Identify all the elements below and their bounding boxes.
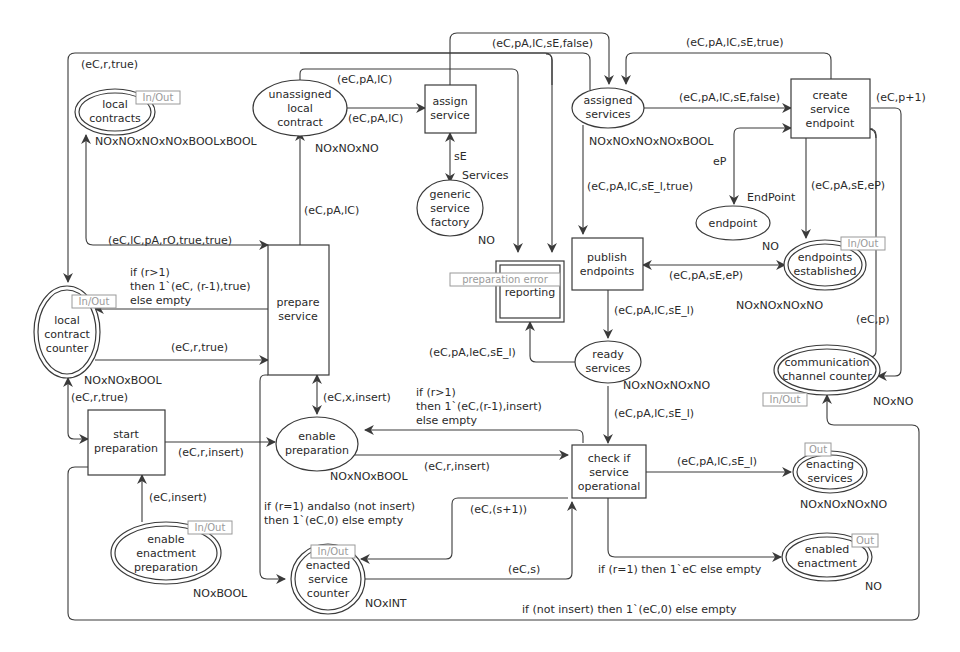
inscription: then 1`(eC,0) else empty [264, 514, 404, 527]
inscription: (eC,r,true) [171, 341, 228, 354]
place-enable-enactment-preparation[interactable]: enable enactment preparation In/Out NOxB… [111, 521, 248, 600]
svg-text:assigned: assigned [584, 94, 633, 107]
place-endpoints-established[interactable]: endpoints established In/Out NOxNOxNOxNO [736, 237, 885, 312]
arc-local-contracts-prepare [86, 135, 268, 245]
inscription: (eC,p+1) [876, 91, 926, 104]
transition-start-preparation[interactable]: start preparation [88, 410, 165, 475]
place-generic-service-factory[interactable]: generic service factory NO Services [417, 169, 509, 247]
svg-text:NO: NO [478, 234, 495, 247]
svg-text:service: service [430, 202, 470, 215]
place-ready-services[interactable]: ready services NOxNOxNOxNO [575, 341, 710, 392]
transition-create-service-endpoint[interactable]: create service endpoint [791, 79, 870, 138]
transition-publish-endpoints[interactable]: publish endpoints [572, 238, 643, 290]
svg-text:enacting: enacting [806, 458, 854, 471]
transition-reporting-subpage[interactable]: reporting preparation error [450, 261, 564, 322]
svg-text:Services: Services [462, 169, 509, 182]
svg-text:generic: generic [429, 188, 470, 201]
svg-text:counter: counter [307, 587, 350, 600]
svg-text:endpoint: endpoint [709, 217, 758, 230]
svg-text:enacted: enacted [306, 559, 351, 572]
transition-assign-service[interactable]: assign service [425, 85, 476, 133]
svg-text:Out: Out [856, 535, 874, 546]
inscription: (eC,r,insert) [424, 460, 490, 473]
svg-text:NOxNOxNOxNO: NOxNOxNOxNO [736, 299, 823, 312]
svg-text:In/Out: In/Out [848, 238, 879, 249]
svg-text:enable: enable [298, 430, 336, 443]
place-enacting-services[interactable]: enacting services Out NOxNOxNOxNO [793, 443, 887, 511]
inscription: (eC,p) [856, 313, 890, 326]
inscription: (eC,s) [508, 563, 540, 576]
svg-text:service: service [308, 573, 348, 586]
inscription: (eC,pA,lC) [304, 204, 359, 217]
svg-text:prepare: prepare [277, 296, 320, 309]
inscription: else empty [416, 414, 478, 427]
inscription: (eC,pA,lC,sE_l) [614, 304, 694, 317]
inscription: then 1`(eC,(r-1),insert) [416, 400, 542, 413]
arc-ready-reporting [530, 322, 575, 362]
place-enabled-enactment[interactable]: enabled enactment Out NO [782, 533, 882, 593]
svg-text:NOxNOxBOOL: NOxNOxBOOL [84, 374, 162, 387]
inscription: (eC,r,insert) [178, 446, 244, 459]
svg-text:preparation: preparation [94, 442, 158, 455]
inscription: (eC,pA,lC) [348, 112, 403, 125]
inscription: (eC,(s+1)) [470, 503, 527, 516]
svg-text:NOxNO: NOxNO [873, 395, 914, 408]
svg-text:NOxNOxNOxNO: NOxNOxNOxNO [623, 379, 710, 392]
svg-text:enabled: enabled [805, 543, 849, 556]
svg-text:factory: factory [431, 216, 470, 229]
svg-text:assign: assign [432, 95, 467, 108]
svg-text:local: local [54, 314, 80, 327]
place-endpoint[interactable]: endpoint NO EndPoint [696, 191, 796, 253]
inscription: (eC,r,true) [71, 391, 128, 404]
svg-text:publish: publish [587, 251, 627, 264]
svg-text:NOxBOOL: NOxBOOL [193, 587, 248, 600]
svg-text:In/Out: In/Out [318, 546, 349, 557]
arc-assigned-reporting [546, 54, 552, 85]
svg-text:endpoint: endpoint [806, 117, 855, 130]
transition-prepare-service[interactable]: prepare service [268, 245, 329, 375]
svg-text:check if: check if [588, 452, 632, 465]
inscription: (eC,pA,sE,eP) [669, 269, 743, 282]
arc-prepare-enacted [260, 375, 285, 579]
inscription: (eC,r,true) [81, 58, 138, 71]
inscription: (eC,pA,lC,sE,false) [492, 37, 593, 50]
svg-text:local: local [287, 102, 313, 115]
inscription: (eC,x,insert) [323, 391, 391, 404]
svg-text:services: services [585, 362, 630, 375]
inscription: else empty [130, 294, 192, 307]
inscription: (eC,pA,lC,sE_l) [614, 407, 694, 420]
svg-text:service: service [810, 103, 850, 116]
inscription: if (not insert) then 1`(eC,0) else empty [522, 603, 737, 616]
svg-text:communication: communication [784, 356, 869, 369]
inscription: (eC,pA,lC) [337, 73, 392, 86]
place-local-contracts[interactable]: local contracts In/Out NOxNOxNOxNOxBOOLx… [75, 89, 258, 148]
inscription: (eC,pA,sE,eP) [811, 179, 885, 192]
svg-text:NO: NO [762, 240, 779, 253]
svg-text:NO: NO [865, 580, 882, 593]
svg-text:start: start [113, 428, 139, 441]
svg-text:services: services [585, 108, 630, 121]
svg-text:service: service [589, 466, 629, 479]
svg-text:Out: Out [809, 444, 827, 455]
svg-text:service: service [278, 310, 318, 323]
svg-text:NOxNOxNOxNO: NOxNOxNOxNO [800, 498, 887, 511]
svg-text:preparation: preparation [285, 444, 349, 457]
svg-text:In/Out: In/Out [79, 296, 110, 307]
svg-text:preparation: preparation [134, 561, 198, 574]
place-enable-preparation[interactable]: enable preparation NOxNOxBOOL [276, 417, 408, 483]
svg-text:preparation error: preparation error [462, 274, 549, 285]
svg-text:NOxINT: NOxINT [365, 597, 407, 610]
svg-text:established: established [793, 265, 856, 278]
svg-text:counter: counter [46, 342, 89, 355]
transition-check-service-operational[interactable]: check if service operational [572, 445, 646, 498]
svg-text:enable: enable [147, 533, 185, 546]
svg-text:endpoints: endpoints [580, 265, 635, 278]
inscription: if (r>1) [130, 266, 170, 279]
svg-text:reporting: reporting [505, 286, 556, 299]
inscription: sE [454, 150, 467, 163]
inscription: if (r=1) then 1`eC else empty [598, 563, 762, 576]
svg-text:contract: contract [277, 116, 323, 129]
svg-text:NOxNOxBOOL: NOxNOxBOOL [330, 470, 408, 483]
svg-text:In/Out: In/Out [770, 394, 801, 405]
svg-text:EndPoint: EndPoint [747, 191, 796, 204]
